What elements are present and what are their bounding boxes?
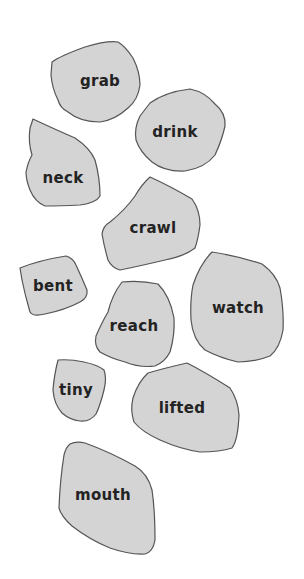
word-watch[interactable]: watch <box>212 299 264 317</box>
word-mouth[interactable]: mouth <box>75 486 131 504</box>
word-bent[interactable]: bent <box>33 277 73 295</box>
word-shapes-canvas: grab drink neck crawl bent reach watch t… <box>0 0 304 579</box>
word-neck[interactable]: neck <box>43 169 84 187</box>
word-crawl[interactable]: crawl <box>130 219 177 237</box>
neck-shape[interactable] <box>26 119 100 206</box>
word-grab[interactable]: grab <box>80 72 120 90</box>
word-tiny[interactable]: tiny <box>59 381 93 399</box>
word-lifted[interactable]: lifted <box>159 399 206 417</box>
word-drink[interactable]: drink <box>152 123 197 141</box>
word-reach[interactable]: reach <box>110 317 159 335</box>
